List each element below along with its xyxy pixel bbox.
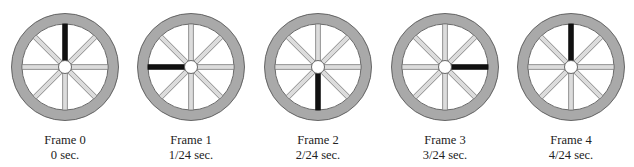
wheel-hub <box>59 61 72 74</box>
wheel-hub <box>185 61 198 74</box>
frame-0: Frame 0 0 sec. <box>2 0 128 167</box>
marked-spoke <box>451 65 489 70</box>
spoke <box>528 65 566 70</box>
spoke <box>324 65 362 70</box>
frame-1: Frame 1 1/24 sec. <box>128 0 254 167</box>
wheel-4 <box>508 0 634 130</box>
frame-title: Frame 0 <box>2 133 128 147</box>
marked-spoke <box>63 24 68 62</box>
frame-time: 4/24 sec. <box>508 148 634 162</box>
wheel-2 <box>255 0 381 130</box>
spoke <box>71 65 109 70</box>
wheel-hub <box>312 61 325 74</box>
spoke <box>402 65 440 70</box>
frame-time: 0 sec. <box>2 148 128 162</box>
frame-title: Frame 3 <box>382 133 508 147</box>
spoke <box>443 73 448 111</box>
frame-4: Frame 4 4/24 sec. <box>508 0 634 167</box>
marked-spoke <box>148 65 186 70</box>
frame-time: 3/24 sec. <box>382 148 508 162</box>
marked-spoke <box>316 73 321 111</box>
frame-2: Frame 2 2/24 sec. <box>255 0 381 167</box>
wheel-frame-sequence: Frame 0 0 sec. Frame 1 1/24 sec. Frame 2… <box>0 0 634 167</box>
wheel-hub <box>439 61 452 74</box>
frame-title: Frame 4 <box>508 133 634 147</box>
spoke <box>275 65 313 70</box>
wheel-3 <box>382 0 508 130</box>
frame-3: Frame 3 3/24 sec. <box>382 0 508 167</box>
wheel-0 <box>2 0 128 130</box>
wheel-hub <box>565 61 578 74</box>
spoke <box>63 73 68 111</box>
spoke <box>189 73 194 111</box>
spoke <box>316 24 321 62</box>
spoke <box>197 65 235 70</box>
wheel-1 <box>128 0 254 130</box>
frame-title: Frame 2 <box>255 133 381 147</box>
spoke <box>569 73 574 111</box>
spoke <box>443 24 448 62</box>
frame-time: 1/24 sec. <box>128 148 254 162</box>
marked-spoke <box>569 24 574 62</box>
spoke <box>189 24 194 62</box>
frame-time: 2/24 sec. <box>255 148 381 162</box>
spoke <box>577 65 615 70</box>
frame-title: Frame 1 <box>128 133 254 147</box>
spoke <box>22 65 60 70</box>
